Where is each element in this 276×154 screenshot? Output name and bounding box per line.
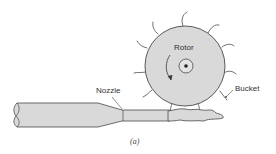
bucket-label: Bucket [235,85,259,93]
bucket-leader [226,90,233,97]
nozzle-label: Nozzle [96,87,120,95]
bucket-leader-dot [225,96,227,98]
figure-caption: (a) [130,138,139,146]
supply-pipe [14,103,170,127]
rotor-label: Rotor [174,44,194,52]
impulse-turbine-diagram [0,0,276,154]
rotor-axle-icon [184,64,188,68]
water-jet [168,109,223,121]
